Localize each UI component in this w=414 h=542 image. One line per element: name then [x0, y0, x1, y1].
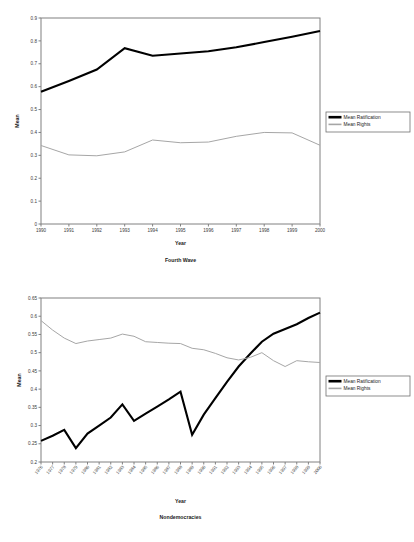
- x-axis-tick-label: 1994: [147, 228, 158, 233]
- x-axis-tick-label: 1988: [173, 464, 183, 475]
- x-axis-tick-label: 1989: [185, 464, 195, 475]
- x-axis-tick-label: 1996: [203, 228, 214, 233]
- y-axis-tick-label: 0.8: [31, 39, 38, 44]
- x-axis-tick-label: 1982: [103, 464, 113, 475]
- legend-label-mean-rights: Mean Rights: [344, 386, 372, 391]
- chart-nondemocracies: 0.20.250.30.350.40.450.50.550.60.6519761…: [0, 271, 414, 542]
- legend-label-mean-rights: Mean Rights: [344, 122, 372, 127]
- x-axis-tick-label: 1991: [208, 464, 218, 475]
- y-axis-tick-label: 0.6: [31, 314, 38, 319]
- x-axis-tick-label: 1990: [36, 228, 47, 233]
- x-axis-tick-label: 1993: [231, 464, 241, 475]
- y-axis-tick-label: 0.4: [31, 387, 38, 392]
- chart-title: Nondemocracies: [160, 514, 202, 520]
- x-axis-tick-label: 1990: [196, 464, 206, 475]
- x-axis-tick-label: 1977: [45, 464, 55, 475]
- y-axis-tick-label: 0.35: [28, 405, 37, 410]
- y-axis-tick-label: 0.4: [31, 130, 38, 135]
- x-axis-tick-label: 1980: [80, 464, 90, 475]
- x-axis-tick-label: 1992: [92, 228, 103, 233]
- plot-area-frame: [41, 18, 320, 224]
- y-axis-tick-label: 0.5: [31, 107, 38, 112]
- y-axis-tick-label: 0: [34, 222, 37, 227]
- y-axis-tick-label: 0.1: [31, 199, 38, 204]
- y-axis-tick-label: 0.7: [31, 61, 38, 66]
- figure-nondemocracies: 0.20.250.30.350.40.450.50.550.60.6519761…: [0, 271, 414, 542]
- figure-fourth-wave: 00.10.20.30.40.50.60.70.80.9199019911992…: [0, 0, 414, 271]
- x-axis-tick-label: 1976: [34, 464, 44, 475]
- x-axis-tick-label: 2000: [315, 228, 326, 233]
- y-axis-tick-label: 0.9: [31, 16, 38, 21]
- legend-label-mean-ratification: Mean Ratification: [344, 379, 381, 384]
- x-axis-tick-label: 1991: [64, 228, 75, 233]
- x-axis-tick-label: 1995: [255, 464, 265, 475]
- x-axis-tick-label: 1995: [175, 228, 186, 233]
- x-axis-tick-label: 1987: [162, 464, 172, 475]
- x-axis-tick-label: 1997: [278, 464, 288, 475]
- chart-title: Fourth Wave: [165, 257, 196, 263]
- y-axis-tick-label: 0.45: [28, 369, 37, 374]
- x-axis-tick-label: 1999: [301, 464, 311, 475]
- y-axis-title: Mean: [14, 114, 20, 127]
- y-axis-tick-label: 0.2: [31, 460, 38, 465]
- x-axis-tick-label: 1984: [127, 464, 137, 475]
- x-axis-tick-label: 1997: [231, 228, 242, 233]
- y-axis-tick-label: 0.2: [31, 176, 38, 181]
- x-axis-tick-label: 1996: [266, 464, 276, 475]
- x-axis-title: Year: [175, 240, 186, 246]
- y-axis-tick-label: 0.3: [31, 153, 38, 158]
- x-axis-tick-label: 1979: [69, 464, 79, 475]
- x-axis-tick-label: 1992: [220, 464, 230, 475]
- x-axis-tick-label: 2000: [313, 464, 323, 475]
- x-axis-tick-label: 1983: [115, 464, 125, 475]
- x-axis-tick-label: 1994: [243, 464, 253, 475]
- y-axis-tick-label: 0.55: [28, 332, 37, 337]
- y-axis-tick-label: 0.65: [28, 296, 37, 301]
- y-axis-tick-label: 0.5: [31, 350, 38, 355]
- y-axis-tick-label: 0.6: [31, 84, 38, 89]
- y-axis-tick-label: 0.3: [31, 423, 38, 428]
- y-axis-title: Mean: [16, 373, 22, 386]
- x-axis-tick-label: 1985: [138, 464, 148, 475]
- x-axis-tick-label: 1998: [289, 464, 299, 475]
- y-axis-tick-label: 0.25: [28, 441, 37, 446]
- x-axis-tick-label: 1993: [120, 228, 131, 233]
- plot-area-frame: [41, 298, 320, 462]
- x-axis-tick-label: 1986: [150, 464, 160, 475]
- x-axis-tick-label: 1998: [259, 228, 270, 233]
- x-axis-tick-label: 1978: [57, 464, 67, 475]
- legend-label-mean-ratification: Mean Ratification: [344, 115, 381, 120]
- x-axis-tick-label: 1981: [92, 464, 102, 475]
- x-axis-title: Year: [175, 498, 186, 504]
- chart-fourth-wave: 00.10.20.30.40.50.60.70.80.9199019911992…: [0, 0, 414, 271]
- x-axis-tick-label: 1999: [287, 228, 298, 233]
